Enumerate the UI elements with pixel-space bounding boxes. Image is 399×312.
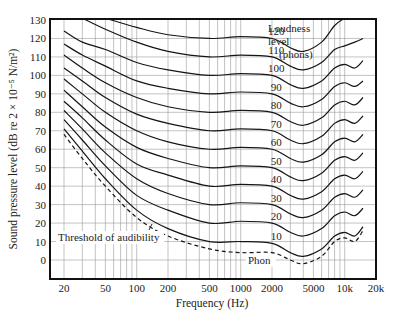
y-tick-label: 30	[35, 199, 47, 211]
x-axis-title: Frequency (Hz)	[176, 297, 249, 310]
legend-title-line1: Loudness	[268, 22, 310, 34]
y-tick-label: 70	[35, 125, 47, 137]
y-tick-label: 120	[30, 32, 47, 44]
y-tick-label: 20	[35, 217, 47, 229]
y-tick-label: 110	[30, 51, 47, 63]
phon-label: 10	[271, 230, 283, 242]
phon-curve-100	[64, 31, 363, 88]
x-tick-label: 20k	[368, 282, 385, 294]
loudness-curves	[64, 18, 363, 264]
phon-curve-40	[64, 101, 363, 199]
legend-title-line2: level	[268, 35, 289, 47]
legend-title-line3: (phons)	[279, 48, 313, 61]
phon-curve-50	[64, 90, 363, 181]
y-axis-ticks: 0102030405060708090100110120130	[30, 14, 47, 266]
y-tick-label: 80	[35, 106, 47, 118]
phon-label: 90	[271, 81, 283, 93]
x-tick-label: 500	[201, 282, 218, 294]
phon-curve-20	[64, 120, 363, 236]
x-tick-label: 200	[160, 282, 177, 294]
phon-label: 20	[271, 210, 283, 222]
phon-annotation: Phon	[248, 254, 271, 266]
y-tick-label: 60	[35, 143, 47, 155]
x-tick-label: 5000	[302, 282, 325, 294]
x-tick-label: 20	[59, 282, 71, 294]
phon-curve-70	[64, 68, 363, 144]
x-tick-label: 1000	[230, 282, 253, 294]
x-tick-label: 100	[128, 282, 145, 294]
x-axis-ticks: 205010020050010002000500010k20k	[59, 282, 385, 294]
phon-curve-110	[82, 18, 363, 70]
threshold-curve	[64, 134, 363, 263]
equal-loudness-chart: 0102030405060708090100110120130 20501002…	[0, 0, 399, 312]
x-tick-label: 50	[100, 282, 112, 294]
phon-label: 70	[271, 118, 283, 130]
x-tick-label: 2000	[261, 282, 284, 294]
phon-label: 80	[271, 99, 283, 111]
y-tick-label: 0	[41, 254, 47, 266]
x-tick-label: 10k	[336, 282, 353, 294]
y-tick-label: 90	[35, 88, 47, 100]
y-tick-label: 10	[35, 236, 47, 248]
y-tick-label: 130	[30, 14, 47, 26]
phon-label: 50	[271, 155, 283, 167]
threshold-annotation: Threshold of audibility	[58, 231, 160, 243]
y-tick-label: 40	[35, 180, 47, 192]
phon-label: 60	[271, 136, 283, 148]
phon-label: 30	[271, 192, 283, 204]
phon-label: 100	[268, 62, 285, 74]
phon-label: 40	[271, 173, 283, 185]
phon-curve-60	[64, 79, 363, 162]
y-tick-label: 100	[30, 69, 47, 81]
phon-curve-30	[64, 110, 363, 217]
y-tick-label: 50	[35, 162, 47, 174]
y-axis-title: Sound pressure level (dB re 2 × 10⁻⁵ N/m…	[7, 48, 20, 249]
